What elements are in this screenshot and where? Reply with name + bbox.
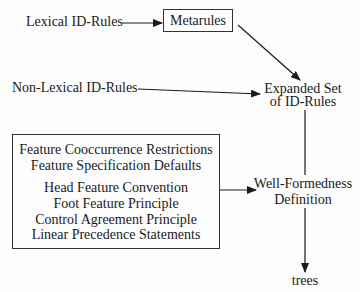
arrow-metarules-to-expanded xyxy=(238,25,300,80)
constraint-item: Linear Precedence Statements xyxy=(13,227,219,243)
constraint-item: Feature Cooccurrence Restrictions xyxy=(13,142,219,158)
node-trees: trees xyxy=(292,273,318,289)
node-well-formedness-line1: Well-Formedness xyxy=(254,176,352,192)
node-metarules: Metarules xyxy=(164,13,232,29)
node-non-lexical-id-rules: Non-Lexical ID-Rules xyxy=(12,80,138,96)
constraints-box: Feature Cooccurrence Restrictions Featur… xyxy=(12,134,220,249)
node-lexical-id-rules: Lexical ID-Rules xyxy=(26,14,123,30)
constraint-item: Control Agreement Principle xyxy=(13,212,219,228)
node-well-formedness-line2: Definition xyxy=(274,192,332,208)
arrow-nonlexical-to-expanded xyxy=(138,89,260,94)
constraint-item: Head Feature Convention xyxy=(13,180,219,196)
node-expanded-set-line2: of ID-Rules xyxy=(270,94,337,110)
constraint-item: Feature Specification Defaults xyxy=(13,158,219,174)
constraint-item: Foot Feature Principle xyxy=(13,196,219,212)
node-metarules-box: Metarules xyxy=(163,9,233,32)
